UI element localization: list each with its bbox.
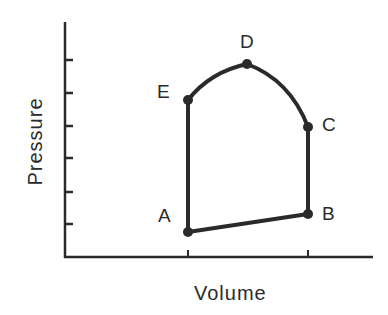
x-axis-title: Volume xyxy=(194,282,267,305)
label-e: E xyxy=(157,82,170,101)
pv-diagram xyxy=(0,0,388,315)
point-a xyxy=(183,227,193,237)
cycle-path xyxy=(188,64,308,232)
label-d: D xyxy=(240,32,254,51)
point-e xyxy=(183,95,193,105)
y-axis-title: Pressure xyxy=(24,95,47,189)
label-c: C xyxy=(322,115,336,134)
point-c xyxy=(303,122,313,132)
point-d xyxy=(242,59,252,69)
label-a: A xyxy=(158,206,171,225)
point-b xyxy=(303,209,313,219)
label-b: B xyxy=(322,204,335,223)
